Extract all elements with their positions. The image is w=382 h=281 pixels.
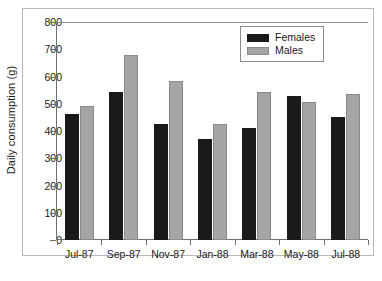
y-axis-tick-mark: [50, 240, 56, 241]
bar-females-jan-88: [198, 139, 212, 240]
bar-males-may-88: [302, 102, 316, 240]
bar-females-jul-87: [65, 114, 79, 240]
x-axis-tick-mark: [324, 240, 325, 245]
bar-males-nov-87: [169, 81, 183, 240]
x-axis-tick-mark: [57, 240, 58, 245]
x-axis-tick-mark: [146, 240, 147, 245]
bar-females-mar-88: [242, 128, 256, 240]
bar-group: [146, 22, 190, 240]
bar-females-sep-87: [109, 92, 123, 241]
x-axis-tick-label: Jul-88: [316, 248, 376, 260]
bar-females-jul-88: [331, 117, 345, 240]
bar-chart: Daily consumption (g) 010020030040050060…: [0, 0, 382, 281]
x-axis-tick-mark: [368, 240, 369, 245]
x-axis-tick-mark: [190, 240, 191, 245]
legend-swatch-females: [247, 34, 269, 42]
bar-group: [190, 22, 234, 240]
legend-label: Males: [275, 44, 303, 57]
bar-group: [57, 22, 101, 240]
bar-males-jul-87: [80, 106, 94, 240]
bar-males-jul-88: [346, 94, 360, 240]
legend-label: Females: [275, 31, 315, 44]
bar-males-mar-88: [257, 92, 271, 241]
x-axis-tick-mark: [101, 240, 102, 245]
legend-swatch-males: [247, 47, 269, 55]
bar-group: [101, 22, 145, 240]
bar-group: [324, 22, 368, 240]
x-axis-tick-mark: [279, 240, 280, 245]
bar-males-jan-88: [213, 124, 227, 240]
y-axis-title: Daily consumption (g): [0, 0, 22, 240]
x-axis-tick-mark: [235, 240, 236, 245]
legend: FemalesMales: [240, 26, 324, 62]
bar-males-sep-87: [124, 55, 138, 240]
legend-item-females: Females: [247, 31, 315, 44]
bar-females-nov-87: [154, 124, 168, 240]
bar-females-may-88: [287, 96, 301, 240]
y-axis-title-label: Daily consumption (g): [5, 66, 17, 174]
legend-item-males: Males: [247, 44, 315, 57]
